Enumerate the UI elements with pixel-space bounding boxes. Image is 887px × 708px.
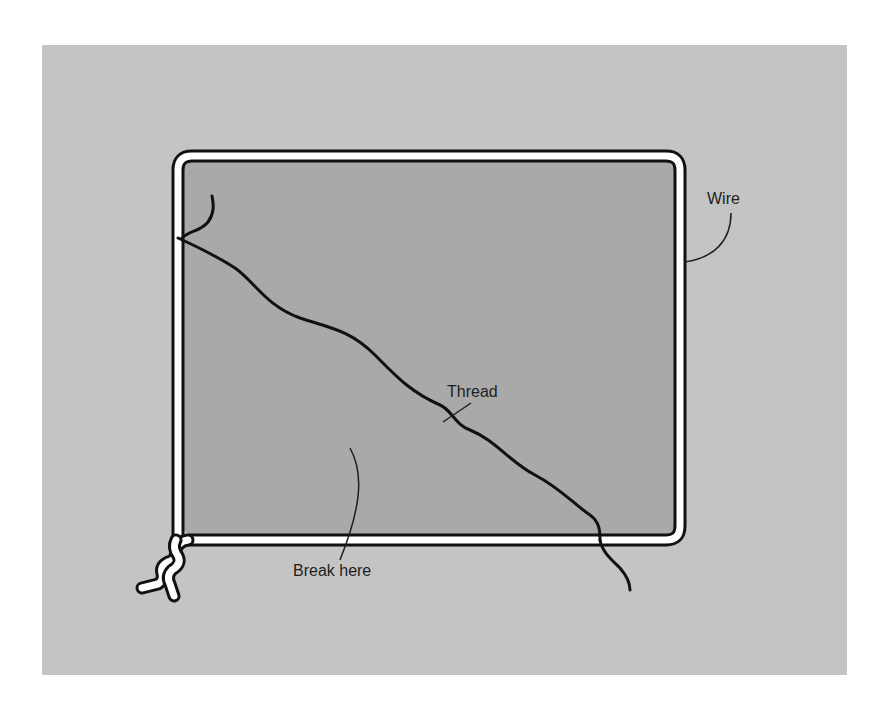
film-area [182,160,676,536]
break-here-label: Break here [293,562,371,579]
thread-label: Thread [447,383,498,400]
wire-label: Wire [707,190,740,207]
diagram-canvas: Wire Thread Break here [0,0,887,708]
